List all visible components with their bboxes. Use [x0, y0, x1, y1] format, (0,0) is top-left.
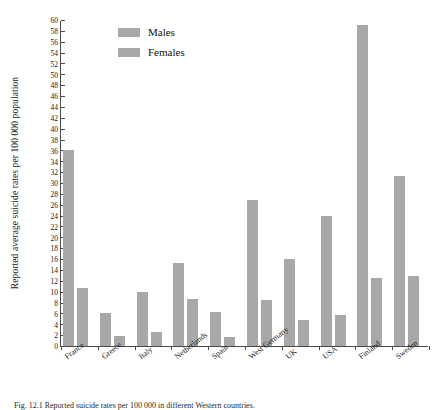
bar-group [61, 21, 98, 346]
y-tick-label: 28 [51, 191, 62, 199]
x-tick-mark [135, 346, 136, 350]
bar-males-france [63, 150, 74, 346]
x-tick-mark [61, 346, 62, 350]
y-tick-label: 48 [51, 82, 62, 90]
y-tick-label: 52 [51, 60, 62, 68]
y-axis-title: Reported average suicide rates per 100 0… [6, 13, 24, 353]
legend-swatch-males [118, 28, 140, 37]
y-tick-label: 26 [51, 201, 62, 209]
bar-females-usa [335, 315, 346, 346]
y-tick-label: 0 [54, 343, 61, 351]
x-tick-mark [245, 346, 246, 350]
y-tick-label: 22 [51, 223, 62, 231]
legend-label-females: Females [148, 47, 185, 58]
legend-item-males: Males [118, 24, 238, 40]
bar-males-usa [321, 216, 332, 346]
bar-group [208, 21, 245, 346]
bar-group [282, 21, 319, 346]
bar-group [135, 21, 172, 346]
y-tick-label: 30 [51, 180, 62, 188]
y-tick-label: 32 [51, 169, 62, 177]
bar-group [98, 21, 135, 346]
bar-males-west-germany [247, 200, 258, 346]
x-tick-mark [392, 346, 393, 350]
bar-males-netherlands [173, 263, 184, 346]
y-tick-label: 16 [51, 256, 62, 264]
y-tick-label: 36 [51, 147, 62, 155]
bar-males-spain [210, 312, 221, 346]
x-axis-label-uk: UK [284, 347, 299, 361]
x-tick-mark [208, 346, 209, 350]
figure-caption: Fig. 12.1 Reported suicide rates per 100… [14, 401, 434, 410]
bar-group [392, 21, 429, 346]
bar-males-greece [100, 313, 111, 346]
y-tick-label: 42 [51, 115, 62, 123]
y-tick-label: 50 [51, 71, 62, 79]
y-tick-label: 54 [51, 49, 62, 57]
bar-males-italy [137, 292, 148, 346]
y-tick-label: 2 [54, 332, 61, 340]
bar-group [245, 21, 282, 346]
x-tick-mark [355, 346, 356, 350]
y-tick-label: 24 [51, 212, 62, 220]
y-tick-label: 6 [54, 310, 61, 318]
y-tick-label: 20 [51, 234, 62, 242]
y-tick-label: 8 [54, 299, 61, 307]
bar-group [171, 21, 208, 346]
x-tick-mark [98, 346, 99, 350]
y-tick-label: 14 [51, 267, 62, 275]
y-tick-label: 10 [51, 288, 62, 296]
y-tick-label: 18 [51, 245, 62, 253]
figure: Reported average suicide rates per 100 0… [0, 0, 440, 410]
legend-item-females: Females [118, 44, 238, 60]
bar-group [355, 21, 392, 346]
y-tick-label: 4 [54, 321, 61, 329]
bar-females-italy [151, 332, 162, 346]
x-axis-label-italy: Italy [137, 345, 154, 361]
bar-females-uk [298, 320, 309, 346]
plot-area: 0246810121416182022242628303234363840424… [60, 21, 428, 347]
y-tick-label: 58 [51, 28, 62, 36]
x-tick-mark [429, 346, 430, 350]
legend-swatch-females [118, 48, 140, 57]
y-tick-label: 38 [51, 136, 62, 144]
bar-series-group [61, 21, 428, 346]
bar-males-sweden [394, 176, 405, 346]
bar-females-finland [371, 278, 382, 346]
bar-males-finland [357, 25, 368, 346]
bar-females-sweden [408, 276, 419, 346]
y-tick-label: 56 [51, 38, 62, 46]
x-tick-mark [282, 346, 283, 350]
chart-legend: Males Females [118, 24, 238, 64]
bar-females-france [77, 288, 88, 346]
bar-group [319, 21, 356, 346]
y-tick-label: 12 [51, 278, 62, 286]
y-tick-label: 40 [51, 125, 62, 133]
y-tick-label: 46 [51, 93, 62, 101]
y-tick-label: 34 [51, 158, 62, 166]
y-tick-label: 60 [51, 17, 62, 25]
x-tick-mark [171, 346, 172, 350]
y-tick-label: 44 [51, 104, 62, 112]
x-tick-mark [319, 346, 320, 350]
legend-label-males: Males [148, 27, 175, 38]
